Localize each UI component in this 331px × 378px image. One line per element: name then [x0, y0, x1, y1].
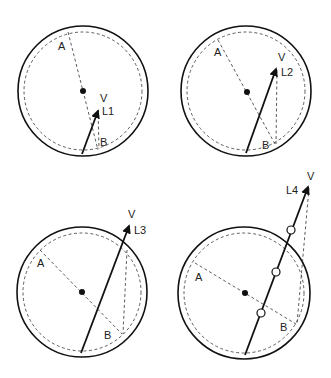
label-a: A	[214, 46, 222, 58]
label-a: A	[58, 40, 66, 52]
sample-point-icon	[257, 309, 265, 317]
vector-l2	[246, 69, 276, 153]
label-l: L4	[286, 184, 298, 196]
label-b: B	[262, 139, 269, 151]
sample-point-icon	[272, 268, 280, 276]
center-dot	[244, 89, 250, 95]
label-l: L2	[281, 66, 293, 78]
sample-point-icon	[287, 226, 295, 234]
projection-line	[276, 70, 277, 144]
label-b: B	[104, 329, 111, 341]
label-a: A	[195, 271, 203, 283]
label-b: B	[100, 136, 107, 148]
label-b: B	[280, 321, 287, 333]
label-l: L3	[134, 224, 146, 236]
panel-l4: A V L4 B	[178, 170, 315, 359]
label-l: L1	[102, 105, 114, 117]
panel-l1: A V L1 B	[18, 26, 148, 156]
projection-line	[98, 110, 99, 149]
label-a: A	[37, 257, 45, 269]
label-v: V	[128, 208, 136, 220]
center-dot	[79, 289, 85, 295]
label-v: V	[100, 92, 108, 104]
label-v: V	[307, 170, 315, 182]
diagram-canvas: A V L1 B A V L2 B A V L3 B	[0, 0, 331, 378]
projection-line	[123, 250, 127, 334]
center-dot	[242, 290, 248, 296]
panel-l2: A V L2 B	[181, 26, 311, 156]
center-dot	[80, 88, 86, 94]
panel-l3: A V L3 B	[17, 208, 147, 357]
label-v: V	[278, 51, 286, 63]
